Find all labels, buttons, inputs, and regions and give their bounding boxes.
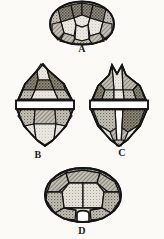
figure-a bbox=[44, 0, 120, 46]
figure-b bbox=[12, 62, 78, 148]
figure-c bbox=[88, 62, 152, 148]
figure-caption-b: B bbox=[28, 150, 48, 160]
figure-b-cingulum bbox=[16, 101, 74, 110]
figure-caption-c: C bbox=[112, 148, 132, 158]
figure-d bbox=[42, 166, 124, 226]
figure-c-drawing bbox=[88, 62, 152, 148]
figure-a-drawing bbox=[44, 0, 120, 46]
figure-d-drawing bbox=[42, 166, 124, 226]
figure-c-cingulum bbox=[90, 101, 148, 110]
illustration-plate: A B C D bbox=[0, 0, 164, 239]
figure-caption-d: D bbox=[72, 226, 92, 236]
figure-caption-a: A bbox=[72, 44, 92, 54]
figure-d-antapical-pore bbox=[77, 211, 89, 222]
figure-b-drawing bbox=[12, 62, 78, 148]
